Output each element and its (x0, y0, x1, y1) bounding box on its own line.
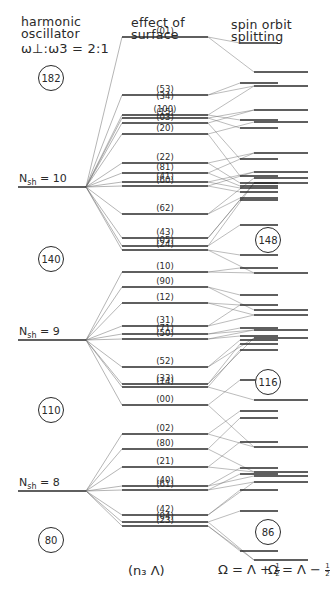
fan-line (86, 303, 122, 340)
n3-lambda-label: (22) (156, 152, 173, 162)
splitting-line (208, 350, 240, 387)
shell-label-nsh: Nsh = 10 (19, 172, 67, 187)
omega-plus-prefix: Ω = Λ + (218, 562, 271, 577)
n3-lambda-label: (80) (156, 438, 173, 448)
n3-lambda-label: (12) (156, 292, 173, 302)
fan-line (86, 187, 122, 238)
fan-line (86, 340, 122, 387)
n3-lambda-label: (60) (156, 175, 173, 185)
splitting-line (208, 110, 254, 123)
quantum-number-legend: (n₃ Λ) (128, 563, 165, 578)
fan-line (86, 449, 122, 491)
fan-line (86, 272, 122, 340)
splitting-line (208, 272, 254, 273)
fan-line (86, 491, 122, 515)
splitting-line (208, 83, 240, 95)
fan-line (86, 134, 122, 187)
splitting-line (208, 468, 240, 486)
omega-minus-half-label: Ω = Λ − 12 (268, 562, 330, 578)
one-half-fraction: 12 (325, 563, 329, 578)
header-harmonic-oscillator: harmonic oscillator ω⊥:ω3 = 2:1 (21, 16, 109, 55)
splitting-line (208, 268, 240, 272)
magic-number-badge: 80 (38, 527, 64, 553)
splitting-line (208, 476, 254, 486)
splitting-line (208, 526, 254, 560)
n3-lambda-label: (14) (156, 376, 173, 386)
header-line: oscillator (21, 28, 109, 40)
magic-number-badge: 182 (38, 65, 64, 91)
fan-line (86, 434, 122, 491)
splitting-line (208, 315, 254, 326)
fan-line (86, 37, 122, 187)
splitting-line (208, 115, 240, 120)
n3-lambda-label: (01) (156, 26, 173, 36)
shell-label-nsh: Nsh = 8 (19, 476, 60, 491)
splitting-line (208, 172, 254, 186)
magic-number-badge: 110 (38, 397, 64, 423)
splitting-line (208, 482, 254, 515)
n3-lambda-label: (62) (156, 203, 173, 213)
splitting-line (208, 305, 240, 326)
fan-line (86, 118, 122, 187)
header-spin-orbit-splitting: spin orbit splitting (231, 19, 292, 43)
magic-number-badge: 116 (255, 369, 281, 395)
splitting-line (208, 336, 240, 339)
splitting-line (208, 123, 240, 159)
splitting-line (208, 511, 240, 522)
header-line: splitting (231, 31, 292, 43)
splitting-line (208, 442, 240, 467)
magic-number-badge: 140 (38, 246, 64, 272)
fan-line (86, 326, 122, 340)
n3-lambda-label: (02) (156, 423, 173, 433)
omega-minus-prefix: Ω = Λ − (268, 562, 321, 577)
n3-lambda-label: (90) (156, 276, 173, 286)
n3-lambda-label: (21) (156, 456, 173, 466)
fan-line (86, 340, 122, 367)
n3-lambda-label: (24) (156, 239, 173, 249)
splitting-line (208, 340, 240, 367)
splitting-line (208, 474, 240, 490)
splitting-line (208, 328, 240, 334)
n3-lambda-label: (10) (156, 261, 173, 271)
fan-line (86, 95, 122, 187)
denominator: 2 (325, 571, 329, 578)
magic-number-badge: 148 (255, 227, 281, 253)
splitting-line (208, 118, 240, 128)
splitting-line (208, 338, 254, 367)
splitting-line (208, 490, 240, 515)
n3-lambda-label: (00) (156, 394, 173, 404)
splitting-line (208, 153, 254, 173)
splitting-line (208, 387, 254, 400)
n3-lambda-label: (03) (156, 112, 173, 122)
frequency-ratio: ω⊥:ω3 = 2:1 (21, 43, 109, 55)
shell-label-nsh: Nsh = 9 (19, 325, 60, 340)
fan-line (86, 467, 122, 491)
n3-lambda-label: (23) (156, 515, 173, 525)
splitting-line (208, 330, 254, 339)
splitting-line (208, 522, 254, 560)
fan-line (86, 187, 122, 246)
splitting-line (208, 172, 254, 182)
fan-line (86, 491, 122, 526)
splitting-line (208, 330, 254, 334)
n3-lambda-label: (52) (156, 356, 173, 366)
splitting-line (208, 225, 240, 246)
n3-lambda-label: (34) (156, 91, 173, 101)
splitting-line (208, 287, 240, 295)
fan-line (86, 340, 122, 405)
splitting-line (208, 173, 240, 186)
fan-line (86, 340, 122, 384)
splitting-line (208, 482, 254, 490)
n3-lambda-label: (50) (156, 328, 173, 338)
splitting-line (208, 303, 240, 305)
splitting-line (208, 110, 254, 118)
fan-line (86, 187, 122, 250)
n3-lambda-label: (61) (156, 479, 173, 489)
magic-number-badge: 86 (255, 519, 281, 545)
fan-line (86, 123, 122, 187)
fan-line (86, 491, 122, 522)
splitting-line (208, 287, 254, 310)
fan-line (86, 287, 122, 340)
splitting-line (208, 153, 254, 163)
n3-lambda-label: (20) (156, 123, 173, 133)
